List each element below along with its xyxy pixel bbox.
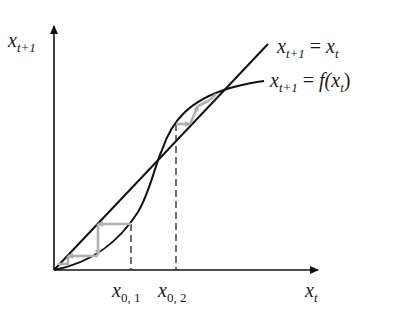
map-eq: = (298, 69, 319, 91)
map-curve-label: xt+1 = f(xt) (270, 70, 350, 90)
cobweb-lower (58, 224, 131, 265)
identity-line (54, 44, 268, 270)
x02-sub: 0, 2 (167, 290, 187, 305)
identity-lhs-base: x (277, 35, 286, 57)
x02-label: x0, 2 (158, 280, 186, 300)
x-axis-label: xt (305, 280, 318, 300)
x-axis-label-base: x (305, 279, 314, 301)
map-rhs-sub: t (340, 80, 344, 95)
identity-lhs-sub: t+1 (286, 46, 305, 61)
x01-sub: 0, 1 (121, 290, 141, 305)
map-curve (54, 81, 264, 270)
identity-rhs-sub: t (335, 46, 339, 61)
identity-rhs-base: x (326, 35, 335, 57)
y-axis-label: xt+1 (8, 30, 36, 50)
identity-line-label: xt+1 = xt (277, 36, 339, 56)
y-axis-label-base: x (8, 29, 17, 51)
map-rhs-close: ) (344, 69, 351, 91)
identity-eq: = (305, 35, 326, 57)
y-axis-label-sub: t+1 (17, 40, 36, 55)
map-lhs-sub: t+1 (279, 80, 298, 95)
map-rhs-func: f( (319, 69, 331, 91)
cobweb-diagram (0, 0, 401, 320)
x02-base: x (158, 279, 167, 301)
x01-base: x (112, 279, 121, 301)
x-axis-label-sub: t (314, 290, 318, 305)
x01-label: x0, 1 (112, 280, 140, 300)
map-lhs-base: x (270, 69, 279, 91)
map-rhs-base: x (331, 69, 340, 91)
